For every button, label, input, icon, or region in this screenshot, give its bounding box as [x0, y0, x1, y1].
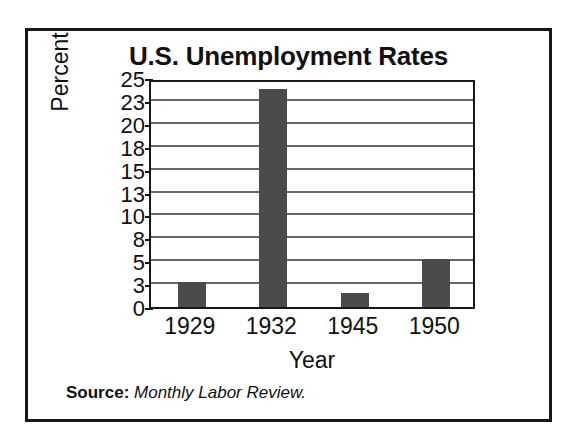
y-tick-label: 0 — [101, 296, 145, 322]
y-tick-label: 13 — [101, 182, 145, 208]
y-tick-label: 23 — [101, 90, 145, 116]
y-tick-label: 3 — [101, 273, 145, 299]
x-tick-label: 1950 — [409, 313, 460, 340]
x-tick-label: 1929 — [164, 313, 215, 340]
source-note: Source: Monthly Labor Review. — [66, 383, 306, 403]
x-tick-label: 1932 — [246, 313, 297, 340]
y-tick-label: 10 — [101, 204, 145, 230]
y-tick-label: 25 — [101, 67, 145, 93]
y-axis-tick-labels: 035810131518202325 — [95, 80, 145, 309]
gridline — [151, 76, 473, 78]
source-label: Source: — [66, 383, 129, 402]
x-axis-title: Year — [149, 347, 475, 374]
bar-1929 — [178, 282, 206, 307]
y-tick-label: 8 — [101, 227, 145, 253]
y-axis-title: Percent — [46, 7, 74, 137]
x-axis-tick-labels: 1929193219451950 — [149, 313, 475, 345]
y-tick-label: 5 — [101, 250, 145, 276]
figure-frame: U.S. Unemployment Rates Percent 03581013… — [25, 28, 552, 422]
plot-area — [149, 80, 475, 309]
y-tick-label: 20 — [101, 113, 145, 139]
bar-1945 — [341, 293, 369, 308]
y-tick-label: 18 — [101, 136, 145, 162]
source-value: Monthly Labor Review. — [134, 383, 306, 402]
y-tick-label: 15 — [101, 159, 145, 185]
bars-layer — [151, 82, 473, 307]
bar-1932 — [259, 89, 287, 307]
bar-1950 — [422, 259, 450, 307]
x-tick-label: 1945 — [327, 313, 378, 340]
